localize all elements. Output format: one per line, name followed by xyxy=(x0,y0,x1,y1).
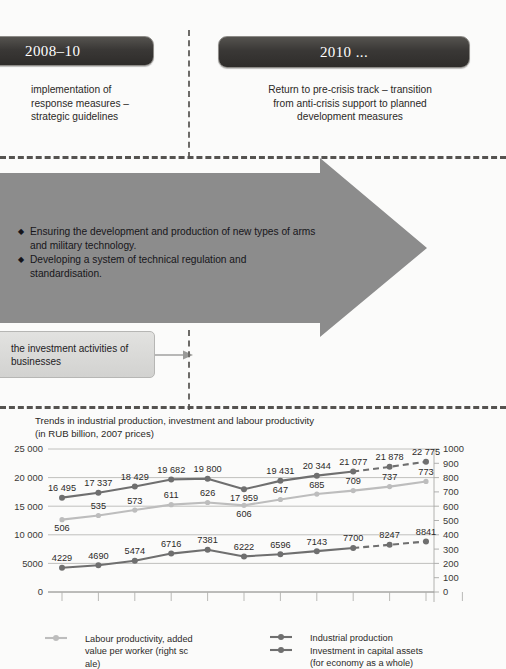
data-point-marker xyxy=(241,486,247,492)
y-right-tick-label: 400 xyxy=(443,529,459,540)
legend-item-investment-capital-assets[interactable]: Investment in capital assets(for economy… xyxy=(270,646,423,668)
phase-title-1: 2008–10 xyxy=(25,43,80,60)
legend-marker-icon xyxy=(278,647,284,653)
data-point-marker xyxy=(241,503,246,508)
data-point-label: 17 337 xyxy=(84,478,112,488)
horizontal-divider-lower xyxy=(0,406,506,409)
chart-title-line2: (in RUB billion, 2007 prices) xyxy=(35,427,395,440)
bullet-text-2: Developing a system of technical regulat… xyxy=(30,253,318,281)
data-point-label: 535 xyxy=(91,501,106,511)
y-right-tick-label: 600 xyxy=(443,501,459,512)
legend-item-labour-productivity[interactable]: Labour productivity, addedvalue per work… xyxy=(45,634,193,669)
data-point-marker xyxy=(387,484,392,489)
data-point-marker xyxy=(132,507,137,512)
data-point-label: 4690 xyxy=(88,551,108,561)
data-point-label: 773 xyxy=(418,467,433,477)
data-point-label: 626 xyxy=(200,488,215,498)
legend-marker-icon xyxy=(53,635,59,641)
data-point-marker xyxy=(314,548,320,554)
y-right-tick-label: 800 xyxy=(443,472,459,483)
data-point-label: 19 431 xyxy=(266,466,294,476)
data-point-label: 647 xyxy=(273,485,288,495)
data-point-label: 16 495 xyxy=(48,483,76,493)
y-right-tick-label: 200 xyxy=(443,558,459,569)
y-right-tick-label: 1000 xyxy=(443,443,464,454)
data-point-marker xyxy=(169,502,174,507)
data-point-label: 20 344 xyxy=(303,461,331,471)
phase-description-2: Return to pre-crisis track – transition … xyxy=(232,83,468,124)
data-point-marker xyxy=(277,551,283,557)
data-point-marker xyxy=(423,538,429,544)
data-point-label: 4229 xyxy=(52,553,72,563)
phase-title-2: 2010 ... xyxy=(320,44,368,61)
phase-box-2008-10[interactable]: 2008–10 xyxy=(0,36,154,66)
data-point-marker xyxy=(350,468,356,474)
slide-page: 2008–10 2010 ... implementation of respo… xyxy=(0,0,506,669)
list-item: ◆ Developing a system of technical regul… xyxy=(18,253,318,281)
data-point-label: 7700 xyxy=(343,533,363,543)
data-point-marker xyxy=(168,476,174,482)
arrow-bullet-list: ◆ Ensuring the development and productio… xyxy=(18,225,318,281)
data-point-label: 19 800 xyxy=(194,464,222,474)
data-point-label: 18 429 xyxy=(121,472,149,482)
legend-item-industrial-production[interactable]: Industrial production xyxy=(270,633,393,643)
data-point-label: 8841 xyxy=(416,527,436,537)
chart-gridlines xyxy=(48,449,434,592)
data-point-marker xyxy=(132,484,138,490)
data-point-marker xyxy=(205,476,211,482)
phase-box-2010[interactable]: 2010 ... xyxy=(218,36,470,68)
chart-title: Trends in industrial production, investm… xyxy=(35,414,395,440)
vertical-divider-top xyxy=(188,30,190,158)
data-point-marker xyxy=(351,488,356,493)
data-point-marker xyxy=(387,542,393,548)
data-point-label: 21 878 xyxy=(376,452,404,462)
y-left-tick-label: 5000 xyxy=(22,558,43,569)
legend-label: Industrial production xyxy=(310,633,393,643)
data-point-label: 21 077 xyxy=(339,457,367,467)
data-point-label: 5474 xyxy=(125,546,145,556)
data-point-marker xyxy=(241,553,247,559)
y-left-tick-label: 20 000 xyxy=(14,472,43,483)
data-point-marker xyxy=(59,495,65,501)
data-point-marker xyxy=(205,500,210,505)
bullet-text-1: Ensuring the development and production … xyxy=(30,225,318,253)
legend-label: Labour productivity, added xyxy=(85,634,193,644)
data-point-label: 709 xyxy=(346,476,361,486)
legend-marker-icon xyxy=(278,634,284,640)
data-point-label: 8247 xyxy=(379,530,399,540)
diamond-bullet-icon: ◆ xyxy=(18,253,30,267)
legend-label: value per worker (right sc xyxy=(85,646,189,656)
data-point-marker xyxy=(96,513,101,518)
y-left-tick-label: 10 000 xyxy=(14,529,43,540)
vertical-divider-bottom xyxy=(188,330,190,410)
data-point-marker xyxy=(423,459,429,465)
diamond-bullet-icon: ◆ xyxy=(18,225,30,239)
y-right-tick-label: 100 xyxy=(443,572,459,583)
y-left-tick-label: 25 000 xyxy=(14,443,43,454)
data-point-label: 7381 xyxy=(197,535,217,545)
data-point-label: 6222 xyxy=(234,542,254,552)
data-point-label: 573 xyxy=(127,496,142,506)
data-point-marker xyxy=(95,490,101,496)
data-point-label: 685 xyxy=(309,480,324,490)
data-point-label: 7143 xyxy=(307,537,327,547)
chart-title-line1: Trends in industrial production, investm… xyxy=(35,414,395,427)
y-right-tick-label: 900 xyxy=(443,458,459,469)
phase-description-1: implementation of response measures – st… xyxy=(31,83,191,124)
data-point-marker xyxy=(314,473,320,479)
data-point-label: 17 959 xyxy=(230,493,258,503)
legend-label: (for economy as a whole) xyxy=(310,658,413,668)
data-point-marker xyxy=(95,562,101,568)
data-point-label: 611 xyxy=(164,490,179,500)
data-point-marker xyxy=(387,464,393,470)
data-point-label: 506 xyxy=(54,523,69,533)
y-left-tick-label: 15 000 xyxy=(14,501,43,512)
data-point-marker xyxy=(132,558,138,564)
data-point-marker xyxy=(59,517,64,522)
list-item: ◆ Ensuring the development and productio… xyxy=(18,225,318,253)
data-point-marker xyxy=(350,545,356,551)
investment-activities-box[interactable]: the investment activities of businesses xyxy=(0,331,155,378)
y-right-tick-label: 500 xyxy=(443,515,459,526)
data-point-marker xyxy=(278,497,283,502)
data-point-marker xyxy=(277,478,283,484)
